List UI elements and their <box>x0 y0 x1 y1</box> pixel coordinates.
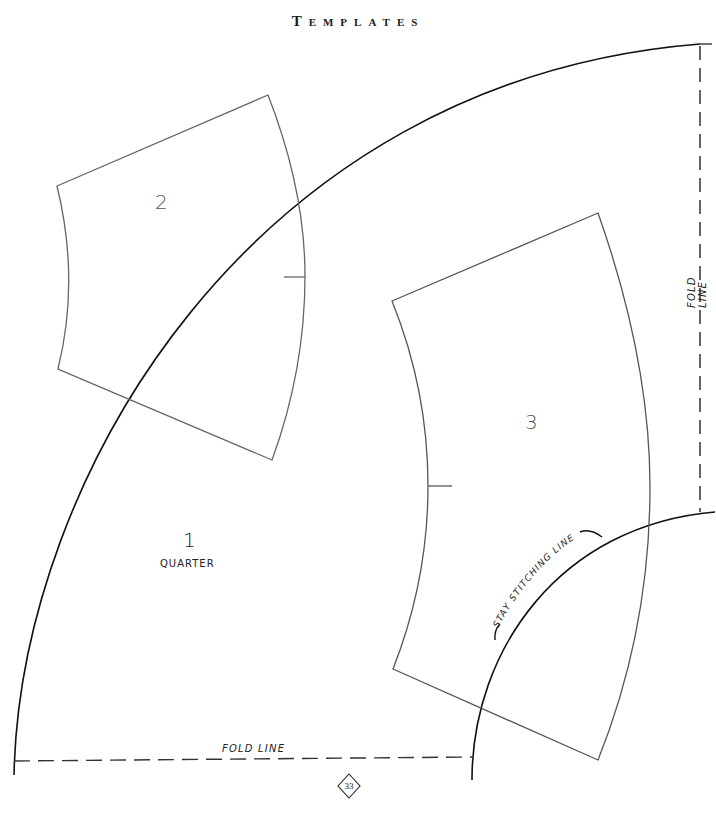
page-number: 33 <box>338 775 360 797</box>
stay-stitching-arc <box>472 512 715 780</box>
fold-line-right-label: FOLD LINE <box>686 276 708 308</box>
fold-line-bottom <box>14 757 472 761</box>
page-title: Templates <box>0 13 716 30</box>
quarter-outer-arc <box>14 44 700 775</box>
template-2-outline <box>57 95 305 460</box>
template-1-caption: QUARTER <box>160 558 215 569</box>
template-3-number: 3 <box>525 410 538 434</box>
template-2-number: 2 <box>155 190 168 214</box>
template-diagram: STAY STITCHING LINE <box>0 0 716 815</box>
stay-stitching-label: STAY STITCHING LINE <box>491 532 577 629</box>
template-1-number: 1 <box>183 528 196 552</box>
stitch-arrow-end <box>580 531 602 537</box>
fold-line-bottom-label: FOLD LINE <box>222 743 285 754</box>
